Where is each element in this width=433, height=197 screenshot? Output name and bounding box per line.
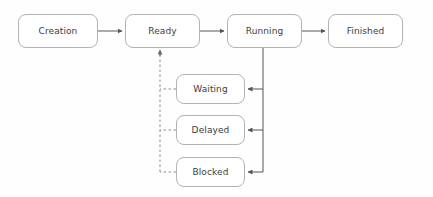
state-label-running: Running	[246, 27, 284, 36]
state-label-waiting: Waiting	[193, 85, 228, 94]
state-label-finished: Finished	[347, 27, 385, 36]
state-node-creation[interactable]: Creation	[18, 14, 98, 48]
state-node-finished[interactable]: Finished	[328, 14, 403, 48]
state-node-delayed[interactable]: Delayed	[176, 115, 245, 145]
state-label-ready: Ready	[148, 27, 176, 36]
state-label-delayed: Delayed	[192, 126, 230, 135]
state-label-blocked: Blocked	[193, 168, 229, 177]
state-node-waiting[interactable]: Waiting	[176, 74, 245, 104]
state-node-blocked[interactable]: Blocked	[176, 157, 245, 187]
state-node-running[interactable]: Running	[227, 14, 302, 48]
state-diagram: Creation Ready Running Finished Waiting …	[0, 0, 433, 197]
state-label-creation: Creation	[39, 27, 78, 36]
state-node-ready[interactable]: Ready	[125, 14, 200, 48]
